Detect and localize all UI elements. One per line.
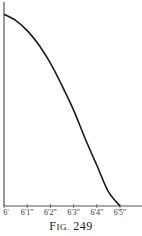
data-curve — [4, 14, 120, 206]
x-tick-label: 6'1" — [21, 208, 34, 217]
x-tick-label: 6'2" — [44, 208, 57, 217]
caption-number: 249 — [73, 219, 93, 233]
figure-caption: FIG. 249 — [0, 219, 142, 234]
chart-plot — [0, 0, 142, 215]
x-tick-label: 6'3" — [67, 208, 80, 217]
x-tick-label: 6'4" — [90, 208, 103, 217]
caption-smallcaps: IG. — [56, 222, 69, 232]
x-tick-label: 6' — [3, 208, 8, 217]
x-tick-label: 6'5" — [114, 208, 127, 217]
